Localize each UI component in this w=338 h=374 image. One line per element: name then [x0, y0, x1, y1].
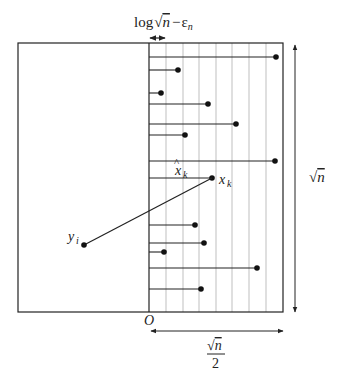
- point-row: [149, 101, 211, 107]
- svg-text:2: 2: [212, 356, 219, 371]
- xk-row: [149, 175, 215, 181]
- geometric-diagram: log√n−εn √n O √n 2 x ^ k x k y i: [0, 0, 338, 374]
- diagram-canvas: log√n−εn √n O √n 2 x ^ k x k y i: [0, 0, 338, 374]
- point-row: [149, 249, 167, 255]
- point-rows: [149, 54, 279, 292]
- point-row: [149, 158, 278, 164]
- data-point: [198, 286, 204, 292]
- svg-text:i: i: [76, 235, 79, 246]
- data-point: [233, 121, 239, 127]
- point-row: [149, 121, 239, 127]
- point-row: [149, 90, 164, 96]
- y-i-label: y i: [66, 229, 79, 246]
- data-point: [182, 132, 188, 138]
- data-point: [158, 90, 164, 96]
- data-point: [175, 67, 181, 73]
- origin-label: O: [144, 313, 154, 328]
- data-point: [201, 240, 207, 246]
- x-hat-k-label: x ^ k: [174, 156, 188, 180]
- point-row: [149, 240, 207, 246]
- point-row: [149, 54, 279, 60]
- svg-text:k: k: [183, 169, 188, 180]
- yi-to-xk-segment: [84, 178, 212, 245]
- data-point: [205, 101, 211, 107]
- yi-point: [81, 242, 87, 248]
- data-point: [273, 54, 279, 60]
- point-row: [149, 132, 188, 138]
- svg-text:^: ^: [174, 156, 180, 168]
- data-point: [272, 158, 278, 164]
- point-row: [149, 67, 181, 73]
- point-row: [149, 286, 204, 292]
- svg-text:√n: √n: [207, 338, 222, 353]
- data-point: [254, 265, 260, 271]
- width-label: √n 2: [207, 338, 225, 371]
- svg-text:x: x: [218, 172, 226, 187]
- x-k-label: x k: [218, 172, 232, 189]
- strip-width-label: log√n−εn: [134, 14, 193, 32]
- data-point: [192, 222, 198, 228]
- data-point: [161, 249, 167, 255]
- svg-text:y: y: [66, 229, 75, 244]
- height-label: √n: [309, 169, 325, 185]
- point-row: [149, 222, 198, 228]
- svg-text:k: k: [227, 178, 232, 189]
